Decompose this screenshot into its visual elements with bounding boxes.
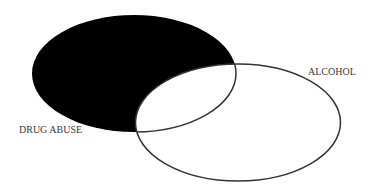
drug-abuse-label: DRUG ABUSE xyxy=(19,124,82,135)
venn-diagram: DRUG ABUSE ALCOHOL xyxy=(0,0,374,190)
venn-diagram-svg xyxy=(0,0,374,190)
alcohol-label: ALCOHOL xyxy=(308,66,356,77)
